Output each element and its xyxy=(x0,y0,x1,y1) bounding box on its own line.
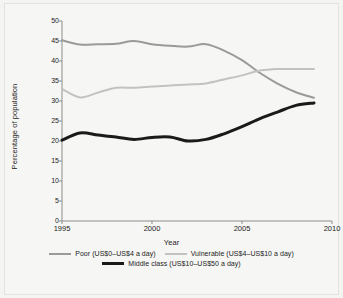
legend-item-poor[interactable]: Poor (US$0–US$4 a day) xyxy=(49,250,155,257)
legend-label-vulnerable: Vulnerable (US$4–US$10 a day) xyxy=(191,250,294,257)
legend-item-vulnerable[interactable]: Vulnerable (US$4–US$10 a day) xyxy=(165,250,294,257)
x-tick-2005: 2005 xyxy=(234,224,251,233)
y-axis-title: Percentage of population xyxy=(10,67,19,187)
y-tick-30: 30 xyxy=(37,97,59,104)
y-tick-0: 0 xyxy=(37,217,59,224)
y-tick-45: 45 xyxy=(37,37,59,44)
x-tick-2000: 2000 xyxy=(144,224,161,233)
poor-line-swatch-icon xyxy=(49,253,71,255)
y-tick-5: 5 xyxy=(37,197,59,204)
x-tick-1995: 1995 xyxy=(54,224,71,233)
chart-legend: Poor (US$0–US$4 a day) Vulnerable (US$4–… xyxy=(0,250,343,270)
y-tick-20: 20 xyxy=(37,137,59,144)
legend-label-poor: Poor (US$0–US$4 a day) xyxy=(75,250,155,257)
y-tick-40: 40 xyxy=(37,57,59,64)
series-line-2 xyxy=(62,103,314,141)
legend-label-middle-class: Middle class (US$10–US$50 a day) xyxy=(128,260,241,267)
chart-figure: 50454035302520151050 1995200020052010 Pe… xyxy=(0,0,343,298)
vulnerable-line-swatch-icon xyxy=(165,253,187,255)
y-tick-10: 10 xyxy=(37,177,59,184)
legend-row-primary: Poor (US$0–US$4 a day) Vulnerable (US$4–… xyxy=(0,250,343,257)
y-tick-15: 15 xyxy=(37,157,59,164)
y-tick-50: 50 xyxy=(37,17,59,24)
y-tick-25: 25 xyxy=(37,117,59,124)
x-tick-2010: 2010 xyxy=(324,224,341,233)
x-axis-title: Year xyxy=(0,238,343,247)
legend-row-secondary: Middle class (US$10–US$50 a day) xyxy=(0,260,343,267)
middle-class-line-swatch-icon xyxy=(102,262,124,265)
legend-item-middle-class[interactable]: Middle class (US$10–US$50 a day) xyxy=(102,260,241,267)
y-tick-35: 35 xyxy=(37,77,59,84)
